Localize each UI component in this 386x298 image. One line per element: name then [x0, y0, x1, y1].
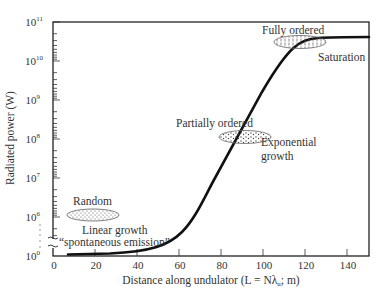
svg-text:80: 80: [217, 259, 229, 271]
svg-text:109: 109: [26, 93, 41, 106]
svg-text:0: 0: [51, 259, 57, 271]
annotation-growth: growth: [261, 150, 294, 163]
x-axis-label: Distance along undulator (L = Nλu; m): [122, 274, 300, 288]
svg-text:120: 120: [298, 259, 315, 271]
svg-text:100: 100: [26, 249, 41, 262]
annotation-partially-ordered: Partially ordered: [176, 117, 253, 130]
svg-text:108: 108: [26, 132, 41, 145]
svg-text:100: 100: [256, 259, 273, 271]
svg-text:60: 60: [175, 259, 187, 271]
annotation-spontaneous-emission: “spontaneous emission”: [59, 236, 170, 249]
svg-text:1010: 1010: [25, 54, 44, 67]
annotation-random: Random: [73, 195, 112, 207]
svg-text:20: 20: [91, 259, 103, 271]
svg-text:140: 140: [340, 259, 357, 271]
y-axis-label: Radiated power (W): [4, 91, 17, 185]
chart: 1011 1010 109 108 107 106 100 0 20 40 60…: [0, 0, 386, 298]
y-minor-ticks: [53, 22, 60, 236]
svg-text:107: 107: [26, 171, 41, 184]
annotation-saturation: Saturation: [318, 51, 366, 63]
fully-ordered-ellipse: [274, 36, 326, 49]
x-tick-labels: 0 20 40 60 80 100 120 140: [51, 259, 357, 271]
power-curve: [68, 37, 369, 255]
annotation-fully-ordered: Fully ordered: [262, 24, 325, 37]
svg-text:106: 106: [26, 210, 41, 223]
annotation-exponential: Exponential: [261, 136, 317, 149]
svg-text:40: 40: [133, 259, 145, 271]
random-ellipse: [67, 209, 119, 221]
y-tick-labels: 1011 1010 109 108 107 106 100: [25, 15, 44, 262]
svg-text:1011: 1011: [25, 15, 43, 28]
